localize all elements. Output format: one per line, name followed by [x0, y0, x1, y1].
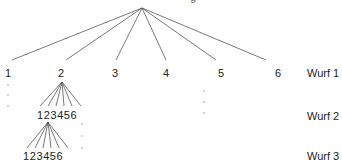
- tree-edges: [0, 0, 342, 166]
- node-2: 2: [58, 67, 64, 79]
- node-5: 5: [218, 67, 224, 79]
- node-3: 3: [112, 67, 118, 79]
- level-label-wurf-1: Wurf 1: [307, 67, 339, 79]
- level-label-wurf-2: Wurf 2: [307, 110, 339, 122]
- level2-nodes: 123456: [37, 109, 77, 121]
- node-6: 6: [275, 67, 281, 79]
- level-label-wurf-3: Wurf 3: [307, 150, 339, 162]
- node-4: 4: [163, 67, 169, 79]
- node-1: 1: [5, 67, 11, 79]
- level3-nodes: 123456: [23, 150, 63, 162]
